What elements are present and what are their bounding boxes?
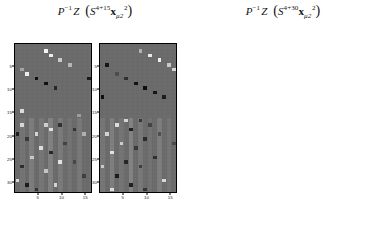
heatmap-cell: [110, 151, 114, 154]
heatmap-cell: [134, 82, 138, 85]
heatmap-cell: [58, 123, 62, 126]
heatmap-band: [100, 118, 105, 192]
heatmap-cell: [124, 160, 128, 163]
heatmap-cell: [68, 63, 72, 66]
heatmap-cell: [25, 183, 29, 186]
heatmap-cell: [139, 119, 143, 122]
y-tickmark: [97, 158, 99, 159]
y-tickmark: [12, 66, 14, 67]
heatmap-cell: [20, 109, 24, 112]
heatmap-cell: [110, 188, 114, 191]
heatmap-cell: [25, 72, 29, 75]
heatmap-cell: [82, 132, 86, 135]
heatmap-cell: [120, 142, 124, 145]
heatmap-cell: [101, 165, 105, 168]
heatmap-cell: [153, 156, 157, 159]
heatmap-cell: [105, 132, 109, 135]
heatmap-cell: [148, 123, 152, 126]
y-tickmark: [97, 66, 99, 67]
y-tickmark: [12, 181, 14, 182]
heatmap-cell: [162, 179, 166, 182]
heatmap-band: [58, 118, 63, 192]
heatmap-cell: [58, 160, 62, 163]
heatmap-cell: [73, 128, 77, 131]
heatmap-cell: [20, 68, 24, 71]
heatmap-cell: [35, 132, 39, 135]
y-tickmark: [12, 158, 14, 159]
heatmap-cell: [49, 54, 53, 57]
heatmap-cell: [172, 142, 176, 145]
axes-panel-imag-left: 5101520253051015 imaginary part: [99, 43, 177, 193]
heatmap-cell: [172, 68, 176, 71]
x-tick-label: 10: [144, 195, 149, 200]
y-tick-label: 30: [92, 179, 97, 184]
y-tick-label: 25: [7, 156, 12, 161]
heatmap-band: [39, 118, 44, 192]
heatmap-cell: [35, 77, 39, 80]
heatmap-band: [148, 118, 153, 192]
y-tickmark: [12, 89, 14, 90]
heatmap-cell: [105, 63, 109, 66]
y-tick-label: 20: [92, 133, 97, 138]
x-tick-label: 10: [59, 195, 64, 200]
heatmap-cell: [44, 169, 48, 172]
heatmap-band: [110, 118, 115, 192]
y-tickmark: [12, 135, 14, 136]
heatmap-cell: [63, 142, 67, 145]
heatmap-cell: [129, 128, 133, 131]
x-tick-label: 15: [83, 195, 88, 200]
heatmap-cell: [124, 119, 128, 122]
figure-group-left: P−1 Z (S4+15xμ2 2) 5101520253051015 real…: [0, 0, 190, 226]
group-title-left: P−1 Z (S4+15xμ2 2): [0, 3, 190, 20]
heatmap-panel-0[interactable]: [14, 43, 92, 193]
heatmap-cell: [82, 174, 86, 177]
group-title-right: P−1 Z (S4+30xμ2 2): [190, 3, 376, 20]
heatmap-cell: [167, 63, 171, 66]
heatmap-cell: [143, 137, 147, 140]
heatmap-cell: [73, 160, 77, 163]
heatmap-panel-1[interactable]: [99, 43, 177, 193]
heatmap-cell: [148, 54, 152, 57]
heatmap-cell: [16, 132, 20, 135]
figure-root: P−1 Z (S4+15xμ2 2) 5101520253051015 real…: [0, 0, 376, 226]
heatmap-cell: [101, 95, 105, 98]
heatmap-cell: [54, 86, 58, 89]
heatmap-cell: [49, 128, 53, 131]
x-tick-label: 5: [122, 195, 124, 200]
heatmap-cell: [54, 183, 58, 186]
heatmap-band: [157, 118, 162, 192]
heatmap-band: [119, 118, 124, 192]
heatmap-cell: [115, 123, 119, 126]
axes-panel-real-left: 5101520253051015 real part: [14, 43, 92, 193]
heatmap-band: [67, 118, 72, 192]
heatmap-cell: [158, 132, 162, 135]
heatmap-cell: [153, 91, 157, 94]
y-tick-label: 30: [7, 179, 12, 184]
x-tick-label: 5: [37, 195, 39, 200]
y-tick-label: 10: [7, 87, 12, 92]
heatmap-cell: [25, 137, 29, 140]
heatmap-cell: [139, 165, 143, 168]
figure-group-right: P−1 Z (S4+30xμ2 2) 5101520253051015 real…: [190, 0, 376, 226]
heatmap-cell: [35, 188, 39, 191]
heatmap-cell: [49, 151, 53, 154]
heatmap-cell: [16, 179, 20, 182]
heatmap-cell: [87, 77, 91, 80]
heatmap-cell: [77, 114, 81, 117]
heatmap-cell: [143, 86, 147, 89]
heatmap-cell: [115, 174, 119, 177]
y-tick-label: 20: [7, 133, 12, 138]
heatmap-cell: [115, 72, 119, 75]
y-tick-label: 15: [92, 110, 97, 115]
y-tickmark: [12, 112, 14, 113]
y-tickmark: [97, 112, 99, 113]
heatmap-band: [20, 118, 25, 192]
y-tick-label: 10: [92, 87, 97, 92]
heatmap-band: [138, 118, 143, 192]
heatmap-cell: [20, 123, 24, 126]
y-tick-label: 5: [10, 64, 12, 69]
x-tick-label: 15: [168, 195, 173, 200]
y-tick-label: 25: [92, 156, 97, 161]
heatmap-band: [77, 118, 82, 192]
y-tickmark: [97, 181, 99, 182]
